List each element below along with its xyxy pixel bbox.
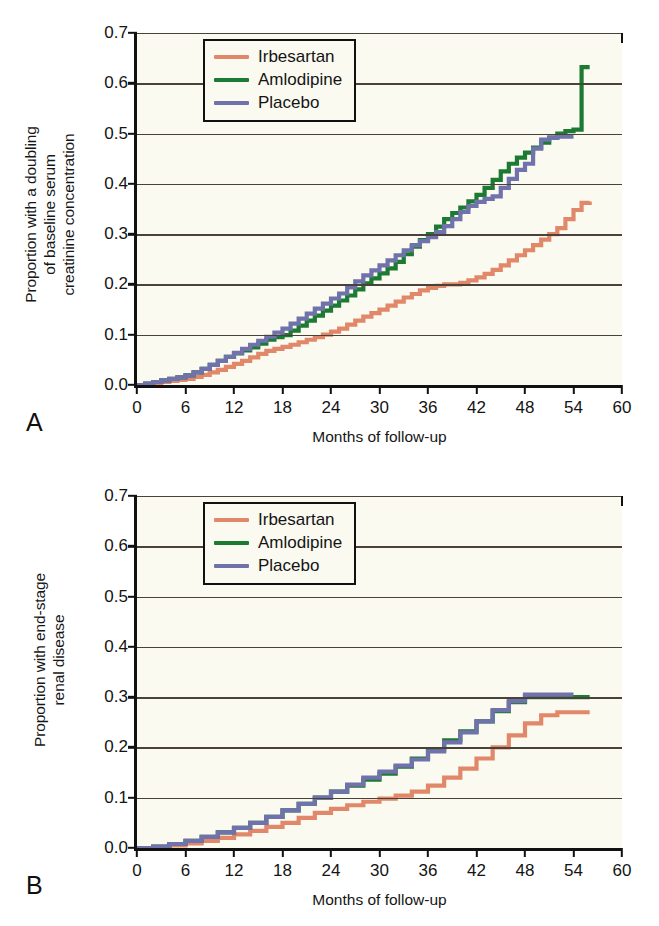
gridline — [137, 134, 622, 135]
legend-item-placebo: Placebo — [214, 556, 342, 576]
y-axis-spine — [134, 33, 137, 388]
panel-b: Proportion with end-stage renal disease … — [0, 463, 659, 926]
legend-a: Irbesartan Amlodipine Placebo — [203, 39, 356, 122]
y-tick-label: 0.3 — [104, 687, 128, 707]
legend-swatch-amlodipine — [214, 78, 249, 83]
gridline — [137, 697, 622, 698]
curve-amlodipine — [137, 697, 590, 848]
legend-swatch-placebo — [214, 101, 249, 106]
x-tick-label: 36 — [419, 398, 438, 418]
y-axis-title-b: Proportion with end-stage renal disease — [30, 495, 68, 825]
gridline — [137, 335, 622, 336]
panel-letter-a: A — [26, 408, 43, 437]
y-tick-label: 0.4 — [104, 637, 128, 657]
legend-swatch-placebo — [214, 564, 249, 569]
y-tick-label: 0.5 — [104, 124, 128, 144]
panel-a: Proportion with a doubling of baseline s… — [0, 0, 659, 463]
gridline — [137, 284, 622, 285]
legend-item-amlodipine: Amlodipine — [214, 533, 342, 553]
legend-label-amlodipine: Amlodipine — [258, 70, 342, 90]
gridline — [137, 597, 622, 598]
x-tick-label: 24 — [322, 861, 341, 881]
gridline — [137, 234, 622, 235]
gridline — [137, 33, 622, 34]
gridline — [137, 647, 622, 648]
legend-label-irbesartan: Irbesartan — [258, 510, 335, 530]
x-tick-label: 0 — [132, 861, 141, 881]
x-tick-label: 30 — [370, 398, 389, 418]
y-axis-title-a: Proportion with a doubling of baseline s… — [21, 35, 78, 395]
y-tick-label: 0.0 — [104, 375, 128, 395]
y-tick-label: 0.4 — [104, 174, 128, 194]
gridline — [137, 496, 622, 497]
x-tick-label: 42 — [467, 398, 486, 418]
legend-label-irbesartan: Irbesartan — [258, 47, 335, 67]
legend-swatch-irbesartan — [214, 518, 249, 523]
x-tick-label: 30 — [370, 861, 389, 881]
x-axis-title-a: Months of follow-up — [137, 428, 622, 446]
x-tick-label: 42 — [467, 861, 486, 881]
curve-irbesartan — [137, 201, 590, 385]
legend-label-amlodipine: Amlodipine — [258, 533, 342, 553]
x-axis-spine — [134, 848, 622, 851]
x-tick-label: 6 — [181, 861, 190, 881]
x-tick-label: 54 — [564, 861, 583, 881]
legend-item-amlodipine: Amlodipine — [214, 70, 342, 90]
y-tick-label: 0.1 — [104, 788, 128, 808]
legend-item-irbesartan: Irbesartan — [214, 47, 342, 67]
legend-label-placebo: Placebo — [258, 556, 319, 576]
y-tick-label: 0.6 — [104, 73, 128, 93]
y-tick-label: 0.7 — [104, 486, 128, 506]
right-edge-tick — [621, 496, 623, 506]
y-tick-label: 0.5 — [104, 587, 128, 607]
legend-item-placebo: Placebo — [214, 93, 342, 113]
x-tick-label: 18 — [273, 861, 292, 881]
x-tick-label: 60 — [613, 398, 632, 418]
plot-area-b: Irbesartan Amlodipine Placebo 0.70.60.50… — [137, 496, 622, 848]
x-tick-label: 48 — [516, 861, 535, 881]
gridline — [137, 747, 622, 748]
figure-kaplan-meier: Proportion with a doubling of baseline s… — [0, 0, 659, 926]
gridline — [137, 184, 622, 185]
legend-swatch-amlodipine — [214, 541, 249, 546]
legend-label-placebo: Placebo — [258, 93, 319, 113]
legend-swatch-irbesartan — [214, 55, 249, 60]
x-tick-label: 18 — [273, 398, 292, 418]
plot-area-a: Irbesartan Amlodipine Placebo 0.70.60.50… — [137, 33, 622, 385]
y-tick-label: 0.2 — [104, 737, 128, 757]
curve-placebo — [137, 695, 574, 848]
y-tick-label: 0.7 — [104, 23, 128, 43]
x-tick-label: 48 — [516, 398, 535, 418]
x-tick-label: 60 — [613, 861, 632, 881]
x-tick-label: 12 — [225, 861, 244, 881]
y-tick-label: 0.3 — [104, 224, 128, 244]
panel-letter-b: B — [26, 871, 43, 900]
legend-item-irbesartan: Irbesartan — [214, 510, 342, 530]
x-tick-label: 24 — [322, 398, 341, 418]
x-tick-label: 54 — [564, 398, 583, 418]
y-tick-label: 0.6 — [104, 536, 128, 556]
x-tick-label: 12 — [225, 398, 244, 418]
right-edge-tick — [621, 33, 623, 43]
y-tick-label: 0.1 — [104, 325, 128, 345]
gridline — [137, 798, 622, 799]
x-tick-label: 6 — [181, 398, 190, 418]
y-axis-spine — [134, 496, 137, 851]
legend-b: Irbesartan Amlodipine Placebo — [203, 502, 356, 585]
y-tick-label: 0.0 — [104, 838, 128, 858]
x-axis-spine — [134, 385, 622, 388]
x-tick-label: 0 — [132, 398, 141, 418]
x-tick-label: 36 — [419, 861, 438, 881]
x-axis-title-b: Months of follow-up — [137, 891, 622, 909]
y-tick-label: 0.2 — [104, 274, 128, 294]
